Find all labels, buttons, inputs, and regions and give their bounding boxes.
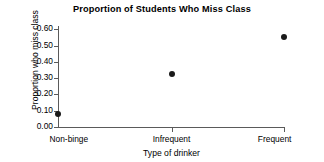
y-tick-label: 0.30 (37, 72, 53, 82)
y-tick-mark (54, 62, 59, 63)
y-tick-mark (54, 127, 59, 128)
plot-area: 0.000.100.200.300.400.500.60 Non-bingeIn… (58, 26, 285, 128)
y-tick-label: 0.60 (37, 23, 53, 33)
y-tick-label: 0.00 (37, 121, 53, 131)
x-tick-label: Infrequent (153, 134, 191, 144)
y-tick-label: 0.20 (37, 88, 53, 98)
y-tick-mark (54, 78, 59, 79)
data-point (169, 71, 175, 77)
y-tick-label: 0.40 (37, 56, 53, 66)
y-tick-mark (54, 46, 59, 47)
x-tick-mark (284, 127, 285, 132)
y-tick-mark (54, 29, 59, 30)
y-tick-mark (54, 94, 59, 95)
x-axis-title: Type of drinker (58, 148, 285, 158)
data-point (281, 34, 287, 40)
x-tick-label: Non-binge (49, 134, 88, 144)
y-tick-label: 0.10 (37, 105, 53, 115)
x-tick-label: Frequent (258, 134, 292, 144)
y-tick-label: 0.50 (37, 40, 53, 50)
data-point (55, 111, 61, 117)
x-tick-mark (172, 127, 173, 132)
chart-title: Proportion of Students Who Miss Class (0, 4, 324, 14)
chart-container: Proportion of Students Who Miss Class Pr… (0, 0, 324, 162)
